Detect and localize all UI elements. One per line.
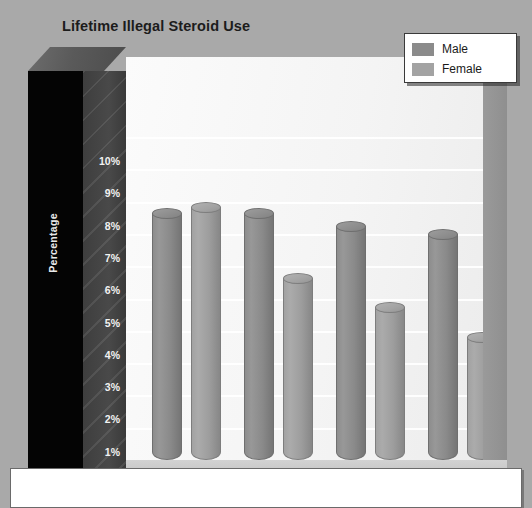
bar-cap-ellipse <box>191 202 221 213</box>
y-axis-tick-label: 3% <box>105 381 120 393</box>
bar-body <box>375 307 405 460</box>
y-axis-tick-panel: 10%9%8%7%6%5%4%3%2%1%0 <box>83 71 126 480</box>
chart-wall-top-slab <box>28 47 126 71</box>
bar-body <box>428 234 458 460</box>
bar-body <box>283 278 313 460</box>
chart-plot-frame: Percentage 10%9%8%7%6%5%4%3%2%1%0 Grade … <box>28 47 507 489</box>
bar-cap-ellipse <box>375 302 405 313</box>
y-axis-panel: Percentage <box>28 71 83 480</box>
y-axis-tick-label: 4% <box>105 349 120 361</box>
bar-grade-10-male[interactable] <box>244 208 274 460</box>
legend-item-female[interactable]: Female <box>412 59 516 79</box>
legend-item-male[interactable]: Male <box>412 39 516 59</box>
gridline <box>126 202 507 204</box>
bar-body <box>244 213 274 460</box>
y-axis-tick-label: 2% <box>105 413 120 425</box>
bar-cap-ellipse <box>283 273 313 284</box>
y-axis-tick-label: 8% <box>105 220 120 232</box>
bar-body <box>336 226 366 460</box>
bar-cap-ellipse <box>336 221 366 232</box>
y-axis-tick-label: 7% <box>105 252 120 264</box>
bar-grade-12-male[interactable] <box>428 229 458 460</box>
bar-cap-ellipse <box>428 229 458 240</box>
caption-box <box>10 468 522 508</box>
bar-cap-ellipse <box>244 208 274 219</box>
bar-grade-9-female[interactable] <box>191 202 221 460</box>
bar-grade-9-male[interactable] <box>152 208 182 460</box>
chart-title: Lifetime Illegal Steroid Use <box>62 18 250 34</box>
y-axis-tick-label: 5% <box>105 317 120 329</box>
gridline <box>126 137 507 139</box>
legend-swatch-female-icon <box>412 63 434 76</box>
bar-grade-11-female[interactable] <box>375 302 405 460</box>
gridline <box>126 169 507 171</box>
chart-legend: Male Female <box>404 33 517 83</box>
bar-grade-11-male[interactable] <box>336 221 366 460</box>
chart-right-wall <box>483 57 507 480</box>
y-axis-tick-label: 1% <box>105 446 120 458</box>
bar-cap-ellipse <box>152 208 182 219</box>
y-axis-tick-label: 6% <box>105 284 120 296</box>
bar-grade-10-female[interactable] <box>283 273 313 460</box>
legend-label-male: Male <box>442 42 468 56</box>
bar-body <box>152 213 182 460</box>
bar-body <box>191 207 221 460</box>
y-axis-title: Percentage <box>47 188 59 298</box>
legend-label-female: Female <box>442 62 482 76</box>
y-axis-tick-label: 9% <box>105 187 120 199</box>
legend-swatch-male-icon <box>412 43 434 56</box>
plot-area <box>126 57 507 480</box>
y-axis-tick-label: 10% <box>99 155 120 167</box>
